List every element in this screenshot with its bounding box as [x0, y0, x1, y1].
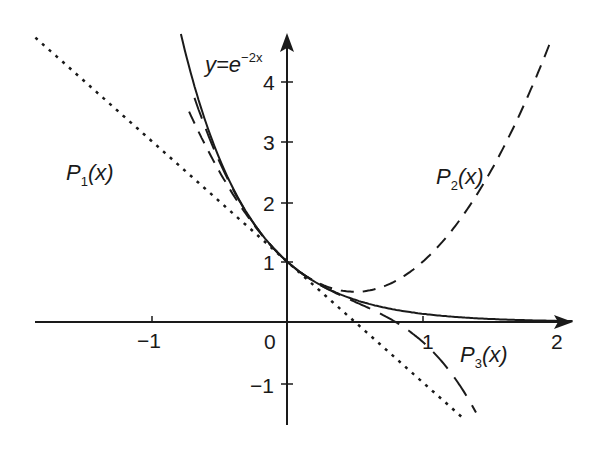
x-tick-label-m1: −1	[137, 329, 161, 352]
curve-p3	[195, 98, 477, 413]
label-exp-function: y=e−2x	[203, 50, 263, 77]
label-p2: P2(x)	[436, 164, 484, 193]
curve-p2	[189, 41, 551, 292]
curve-p1	[35, 38, 462, 418]
y-tick-label-4: 4	[263, 71, 275, 94]
y-tick-label-1: 1	[263, 251, 275, 274]
y-tick-label-3: 3	[263, 131, 275, 154]
x-tick-label-1: 1	[422, 330, 434, 353]
label-p1: P1(x)	[66, 160, 114, 189]
taylor-polynomial-chart: −1 0 1 2 4 3 2 1 −1 y=e−2x P1(x) P2(x) P…	[0, 0, 601, 450]
curve-exp-minus-2x	[181, 34, 573, 321]
y-tick-label-m1: −1	[250, 374, 274, 397]
label-p3: P3(x)	[460, 342, 508, 371]
x-tick-label-0: 0	[264, 330, 276, 353]
y-tick-label-2: 2	[263, 192, 275, 215]
x-tick-label-2: 2	[551, 330, 563, 353]
